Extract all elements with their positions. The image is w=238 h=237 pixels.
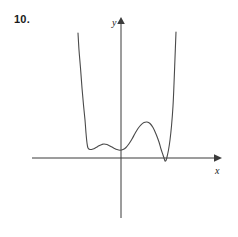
problem-number-label: 10.	[14, 14, 30, 25]
y-axis-label: y	[111, 17, 117, 28]
polynomial-graph-figure: 10. x y	[0, 0, 238, 237]
x-axis-label: x	[214, 165, 220, 176]
graph-canvas: x y	[0, 0, 238, 237]
x-axis-arrowhead-icon	[214, 154, 222, 162]
polynomial-curve	[78, 32, 176, 161]
y-axis-arrowhead-icon	[117, 17, 125, 24]
